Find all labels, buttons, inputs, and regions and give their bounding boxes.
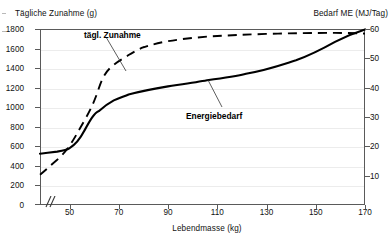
x-tick-130: 130 [247,208,287,217]
y-right-tickmark-50 [365,58,370,59]
series-label-taegl-zunahme: tägl. Zunahme [84,30,141,40]
y-left-tick-1800: 1800 [0,25,24,34]
y-left-tickmark-1800 [35,29,40,30]
page-crop-mark-top [2,13,6,14]
y-right-tickmark-60 [365,29,370,30]
y-right-tick-10: 10 [370,172,392,181]
y-left-tick-1200: 1200 [0,84,24,93]
y-left-tickmark-1200 [35,88,40,89]
x-axis-title-text: Lebendmasse (kg) [150,224,241,233]
y-left-tick-600: 600 [0,142,24,151]
y-axis-right-title: Bedarf ME (MJ/Tag) [313,9,388,18]
y-left-tick-800: 800 [0,123,24,132]
y-left-tick-400: 400 [0,162,24,171]
y-left-tickmark-1400 [35,68,40,69]
y-left-tickmark-200 [35,185,40,186]
y-right-tick-60: 60 [370,25,392,34]
x-tick-50: 50 [50,208,90,217]
chart-container: Tägliche Zunahme (g) Bedarf ME (MJ/Tag) … [0,0,392,241]
leader-line-energiebedarf [208,80,222,107]
x-tickmark-70 [119,205,120,209]
x-axis-title: Lebendmasse (kg) [0,224,392,233]
x-tick-70: 70 [99,208,139,217]
x-tick-170: 170 [345,208,385,217]
y-right-tick-20: 20 [370,142,392,151]
y-left-tickmark-1000 [35,107,40,108]
y-left-tickmark-0 [35,204,40,205]
y-right-tickmark-10 [365,176,370,177]
x-tickmark-150 [316,205,317,209]
leader-line-taegl-zunahme [106,37,126,71]
y-right-tickmark-20 [365,146,370,147]
y-left-tickmark-1600 [35,49,40,50]
x-tick-90: 90 [148,208,188,217]
y-axis-left-title: Tägliche Zunahme (g) [15,9,97,18]
y-left-tickmark-800 [35,127,40,128]
y-right-tickmark-30 [365,117,370,118]
axis-break-icon [44,196,58,208]
y-left-tickmark-400 [35,166,40,167]
y-left-tick-1000: 1000 [0,103,24,112]
y-right-tick-50: 50 [370,54,392,63]
y-left-tick-1400: 1400 [0,64,24,73]
x-tickmark-90 [168,205,169,209]
x-tickmark-170 [365,205,366,209]
x-tickmark-130 [267,205,268,209]
y-left-tickmark-600 [35,146,40,147]
y-right-tick-40: 40 [370,84,392,93]
series-label-energiebedarf: Energiebedarf [186,111,242,121]
y-left-tick-1600: 1600 [0,45,24,54]
x-tickmark-50 [70,205,71,209]
x-tickmark-110 [217,205,218,209]
x-tick-150: 150 [296,208,336,217]
y-left-tick-200: 200 [0,181,24,190]
series-line-energiebedarf [40,29,365,153]
x-tick-110: 110 [197,208,237,217]
y-left-tick-0: 0 [0,201,24,210]
y-right-tick-30: 30 [370,113,392,122]
series-line-taegl-zunahme [40,33,365,175]
y-right-tickmark-40 [365,88,370,89]
